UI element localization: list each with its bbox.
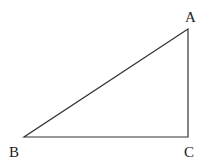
triangle-abc bbox=[24, 29, 188, 137]
triangle-svg: A B C bbox=[0, 0, 203, 168]
triangle-diagram: A B C bbox=[0, 0, 203, 168]
vertex-label-c: C bbox=[184, 144, 194, 160]
vertex-label-b: B bbox=[9, 144, 19, 160]
vertex-label-a: A bbox=[185, 9, 196, 25]
